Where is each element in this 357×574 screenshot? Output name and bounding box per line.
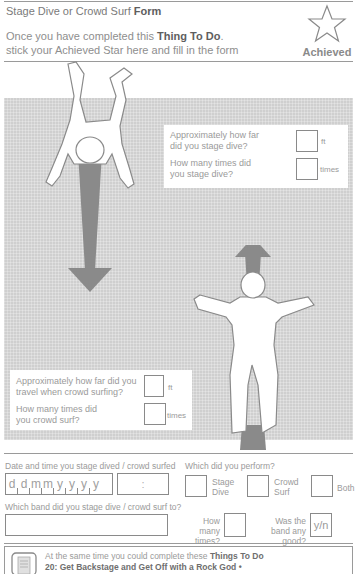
time-input[interactable]: : (117, 473, 169, 495)
date-cell: y (90, 474, 102, 494)
date-cell: d (18, 474, 30, 494)
page-title: Stage Dive or Crowd Surf Form (6, 5, 161, 17)
stage-dive-panel: Approximately how far did you stage dive… (164, 125, 348, 188)
crowd-surf-checkbox[interactable] (247, 475, 269, 497)
crowd-surf-count-unit: times (167, 411, 186, 420)
crowd-surf-distance-question: Approximately how far did you travel whe… (16, 376, 140, 398)
date-cell: y (54, 474, 66, 494)
document-icon (11, 552, 37, 574)
crowd-surf-count-input[interactable] (144, 403, 166, 425)
top-rule (4, 1, 353, 2)
stage-dive-count-unit: times (320, 165, 339, 174)
date-cell: d (6, 474, 18, 494)
both-option-label: Both (337, 483, 355, 493)
band-label: Which band did you stage dive / crowd su… (5, 502, 181, 512)
date-cell: y (66, 474, 78, 494)
related-things-text: At the same time you could complete thes… (45, 551, 264, 573)
crowd-surf-panel: Approximately how far did you travel whe… (10, 370, 192, 430)
crowd-surf-count-question: How many times did you crowd surf? (16, 404, 106, 426)
perform-label: Which did you perform? (185, 461, 275, 471)
band-input[interactable] (5, 514, 168, 536)
achieved-label: Achieved (302, 46, 352, 58)
date-time-label: Date and time you stage dived / crowd su… (5, 461, 176, 471)
date-cell: m (42, 474, 54, 494)
star-outline-icon (307, 4, 347, 44)
related-thing-link[interactable]: 20: Get Backstage and Get Off with a Roc… (45, 562, 242, 572)
how-many-times-label: How many times? (184, 516, 220, 546)
date-cell: y (78, 474, 90, 494)
stage-diver-illustration (40, 60, 170, 310)
stage-dive-checkbox[interactable] (185, 475, 207, 497)
stage-dive-count-input[interactable] (296, 158, 318, 180)
stage-dive-distance-question: Approximately how far did you stage dive… (170, 130, 270, 152)
crowd-surfer-illustration (190, 245, 357, 450)
stage-dive-count-question: How many times did you stage dive? (170, 158, 260, 180)
stage-dive-distance-input[interactable] (296, 130, 318, 152)
both-checkbox[interactable] (311, 475, 333, 497)
crowd-surf-distance-input[interactable] (144, 375, 164, 397)
date-input[interactable]: d d m m y y y y (5, 473, 113, 495)
form-bottom-rule (4, 543, 353, 544)
stage-dive-option-label: Stage Dive (212, 477, 242, 497)
achieved-star[interactable]: Achieved (302, 4, 352, 58)
form-top-rule (4, 453, 353, 454)
stage-dive-distance-unit: ft (321, 137, 325, 146)
crowd-surf-distance-unit: ft (168, 383, 172, 392)
how-many-times-input[interactable] (224, 513, 246, 537)
related-things-box: At the same time you could complete thes… (4, 546, 353, 574)
crowd-surf-option-label: Crowd Surf (274, 477, 304, 497)
date-cell: m (30, 474, 42, 494)
band-good-input[interactable]: y/n (310, 513, 332, 537)
band-good-label: Was the band any good? (254, 516, 306, 546)
intro-text: Once you have completed this Thing To Do… (6, 29, 238, 57)
